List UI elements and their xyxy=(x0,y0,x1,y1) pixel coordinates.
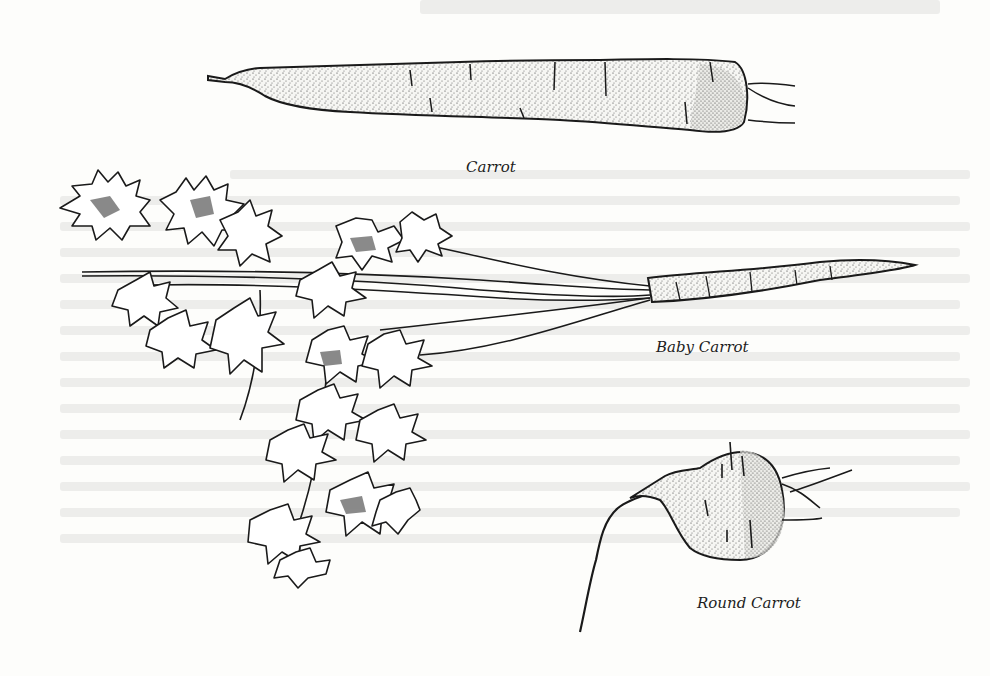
baby-carrot-illustration xyxy=(60,170,915,588)
caption-baby-carrot: Baby Carrot xyxy=(656,338,749,356)
illustration-page: Carrot Baby Carrot Round Carrot xyxy=(0,0,990,676)
carrot-illustration xyxy=(208,59,795,132)
caption-carrot: Carrot xyxy=(466,158,516,176)
caption-round-carrot: Round Carrot xyxy=(697,594,801,612)
